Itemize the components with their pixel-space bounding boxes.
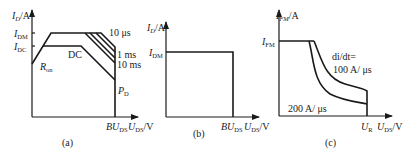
soa-diagrams: ID/A IDM IDC DC Ron 10 μs 1 ms 10 ms PD … (0, 0, 411, 160)
label-200A-us: 200 A/ μs (288, 103, 327, 114)
label-10ms: 10 ms (117, 59, 141, 70)
caption-a: (a) (62, 137, 73, 149)
y-axis-label-a: ID/A (11, 10, 31, 22)
y-axis-label-b: ID/A (146, 22, 166, 34)
panel-b: ID/A IDM BUDS UDS/V (b) (146, 22, 270, 140)
label-pd: PD (117, 85, 129, 97)
soa-rectangle-b (166, 52, 233, 117)
x-tick-ur-c: UR (361, 121, 373, 133)
panel-a: ID/A IDM IDC DC Ron 10 μs 1 ms 10 ms PD … (11, 10, 154, 149)
x-axis-label-b: UDS/V (244, 121, 270, 133)
panel-c: IFM/A IFM di/dt= 100 A/ μs 200 A/ μs UR … (261, 10, 403, 149)
x-axis-label-c: UDS/V (377, 121, 403, 133)
label-didt: di/dt= (332, 51, 356, 62)
label-10us: 10 μs (109, 27, 131, 38)
label-100A-us: 100 A/ μs (333, 64, 372, 75)
caption-b: (b) (193, 128, 205, 140)
y-tick-idm-a: IDM (13, 28, 28, 40)
x-axis-label-a: UDS/V (128, 121, 154, 133)
y-tick-idc-a: IDC (13, 41, 26, 53)
y-axis-label-c: IFM/A (275, 10, 300, 22)
x-tick-buds-b: BUDS (221, 121, 243, 133)
label-ron: Ron (39, 61, 53, 73)
x-tick-buds-a: BUDS (106, 121, 128, 133)
y-tick-idm-b: IDM (148, 47, 163, 59)
y-tick-ifm-c: IFM (261, 36, 275, 48)
caption-c: (c) (325, 137, 336, 149)
label-dc: DC (68, 49, 82, 60)
